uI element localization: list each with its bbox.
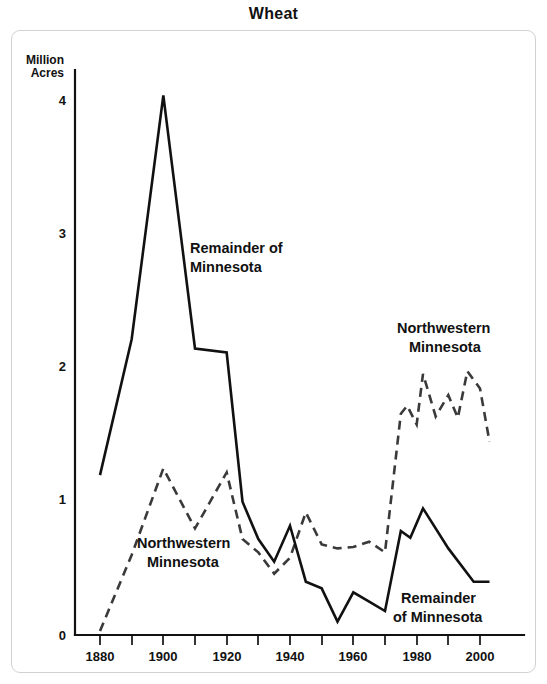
y-tick-label-2: 2 [59, 359, 66, 374]
x-tick-label-1940: 1940 [276, 649, 305, 664]
annotation-line2: of Minnesota [393, 609, 483, 625]
annotation-line1: Remainder of [190, 240, 283, 256]
x-axis-ticks [100, 635, 480, 645]
x-tick-label-1980: 1980 [403, 649, 432, 664]
annotation-northwestern-minnesota-right: Northwestern Minnesota [397, 320, 490, 355]
y-tick-label-0: 0 [59, 628, 66, 643]
page-title: Wheat [0, 5, 547, 23]
annotation-line1: Northwestern [137, 535, 230, 551]
x-tick-label-1900: 1900 [149, 649, 178, 664]
x-tick-label-2000: 2000 [466, 649, 495, 664]
x-tick-label-1920: 1920 [213, 649, 242, 664]
y-axis-title-line1: Million [26, 53, 64, 67]
y-tick-label-1: 1 [59, 492, 66, 507]
annotation-northwestern-minnesota-left: Northwestern Minnesota [137, 535, 230, 570]
annotation-line1: Remainder [401, 590, 476, 606]
annotation-line2: Minnesota [190, 259, 263, 275]
line-chart-svg: Million Acres 4 3 2 1 0 [12, 31, 535, 672]
annotation-line1: Northwestern [397, 320, 490, 336]
chart-frame: Million Acres 4 3 2 1 0 [11, 30, 536, 673]
y-axis-ticks: 4 3 2 1 0 [59, 93, 67, 643]
x-tick-label-1880: 1880 [86, 649, 115, 664]
y-tick-label-3: 3 [59, 226, 66, 241]
y-axis-title-line2: Acres [31, 66, 65, 80]
wheat-acreage-figure: Wheat Million Acres 4 3 2 1 0 [0, 0, 547, 684]
annotation-remainder-of-minnesota-right: Remainder of Minnesota [393, 590, 483, 625]
y-tick-label-4: 4 [59, 93, 67, 108]
annotation-line2: Minnesota [147, 554, 220, 570]
annotation-remainder-of-minnesota-left: Remainder of Minnesota [190, 240, 283, 275]
x-axis-tick-labels: 1880 1900 1920 1940 1960 1980 2000 [86, 649, 495, 664]
x-tick-label-1960: 1960 [339, 649, 368, 664]
annotation-line2: Minnesota [409, 339, 482, 355]
